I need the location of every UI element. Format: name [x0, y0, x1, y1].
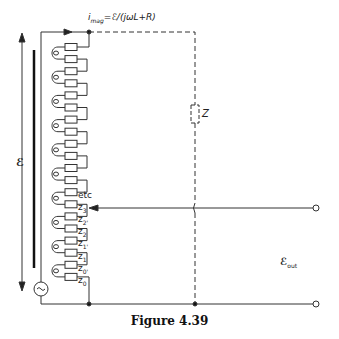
- current-arrow-icon: [64, 29, 72, 35]
- coil-loop: [52, 168, 58, 180]
- output-emf-label: ℰout: [280, 256, 297, 269]
- resistor: [65, 152, 77, 159]
- coil-loop: [52, 241, 58, 253]
- coil-loop: [52, 144, 58, 156]
- tap-label: z1: [78, 251, 87, 263]
- tap-label: z0: [78, 275, 87, 287]
- tap-label: z1': [78, 238, 88, 250]
- coil-loop: [52, 120, 58, 132]
- tap-label: z3: [78, 202, 87, 214]
- resistor: [65, 273, 77, 280]
- emf-label: ℰ: [16, 156, 24, 169]
- resistor: [65, 44, 77, 51]
- tap-arrow-icon: [89, 205, 98, 211]
- coil-loop: [52, 192, 58, 204]
- dashed-load-wire: [89, 32, 195, 105]
- impedance-z-box: [191, 105, 199, 123]
- resistor: [65, 249, 77, 256]
- resistor: [65, 68, 77, 75]
- transformer-circuit-diagram: [0, 0, 339, 339]
- resistor: [65, 189, 77, 196]
- coil-loop: [52, 95, 58, 107]
- resistor: [65, 177, 77, 184]
- figure-caption: Figure 4.39: [0, 314, 339, 328]
- emf-arrow-down-icon: [19, 282, 25, 291]
- resistor: [65, 104, 77, 111]
- coil-loop: [52, 265, 58, 277]
- resistor: [65, 80, 77, 87]
- coil-loop: [52, 216, 58, 228]
- resistor: [65, 116, 77, 123]
- resistor: [65, 165, 77, 172]
- resistor: [65, 140, 77, 147]
- resistor: [65, 225, 77, 232]
- tap-label: z0': [78, 263, 88, 275]
- impedance-label: Z: [202, 108, 209, 119]
- resistor: [65, 92, 77, 99]
- coil-loop: [52, 47, 58, 59]
- output-terminal-top: [313, 205, 319, 211]
- resistor: [65, 213, 77, 220]
- emf-arrow-up-icon: [19, 33, 25, 42]
- tap-label: etc: [78, 190, 92, 200]
- output-terminal-bottom: [313, 301, 319, 307]
- resistor: [65, 56, 77, 63]
- magnetizing-current-label: imag=ℰ/(jωL+R): [88, 12, 156, 24]
- resistor: [65, 128, 77, 135]
- tap-label: z2: [78, 226, 87, 238]
- resistor: [65, 261, 77, 268]
- coil-loop: [52, 71, 58, 83]
- bottom-right-junction-dot: [193, 302, 197, 306]
- resistor: [65, 237, 77, 244]
- resistor: [65, 201, 77, 208]
- tap-label: z2': [78, 214, 88, 226]
